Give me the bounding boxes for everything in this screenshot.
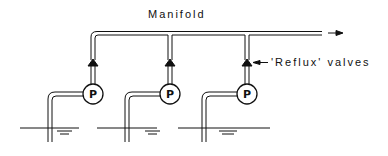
manifold-label: Manifold	[148, 8, 206, 20]
right-arrow-icon	[328, 31, 343, 36]
reflux-valve-icon	[88, 59, 98, 66]
reflux-valve-icon	[165, 59, 175, 66]
manifold-pump-diagram: Manifold 'Reflux' valves P P P	[0, 0, 388, 156]
branch-pipes	[168, 35, 249, 60]
reflux-valve-icon	[242, 59, 252, 66]
water-level-icon	[20, 128, 79, 134]
water-level-icon	[178, 128, 270, 134]
pump-3-label: P	[243, 88, 251, 101]
valve-label-arrow	[253, 61, 268, 65]
pump-riser-pipes	[91, 66, 249, 84]
reflux-valves-label: 'Reflux' valves	[271, 56, 371, 68]
pump-2-label: P	[166, 88, 174, 101]
pump-1-label: P	[89, 88, 97, 101]
